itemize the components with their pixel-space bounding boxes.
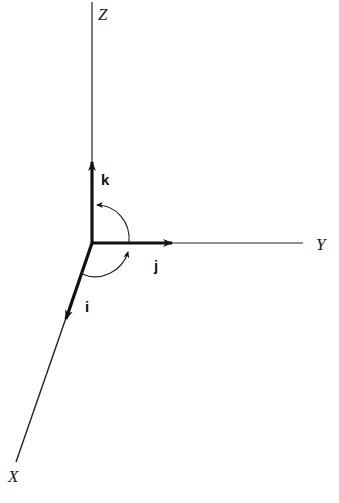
x-axis-label: X [7, 467, 19, 486]
z-axis-label: Z [98, 5, 108, 24]
i-vector-label: i [85, 298, 89, 315]
j-vector-label: j [153, 257, 158, 274]
y-axis-label: Y [316, 235, 327, 254]
k-vector-label: k [101, 171, 110, 188]
coordinate-diagram: Z Y X k j i [0, 0, 339, 503]
arc-j-to-k [97, 205, 129, 243]
